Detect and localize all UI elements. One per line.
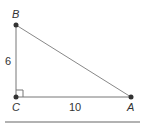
side-ab — [16, 25, 131, 97]
side-ca-length: 10 — [69, 102, 81, 113]
vertex-c-label: C — [12, 102, 20, 113]
vertex-a-dot — [129, 95, 134, 100]
vertex-b-label: B — [12, 9, 19, 20]
side-bc-length: 6 — [5, 56, 11, 67]
vertex-b-dot — [14, 23, 19, 28]
vertex-c-dot — [14, 95, 19, 100]
vertex-a-label: A — [127, 102, 134, 113]
